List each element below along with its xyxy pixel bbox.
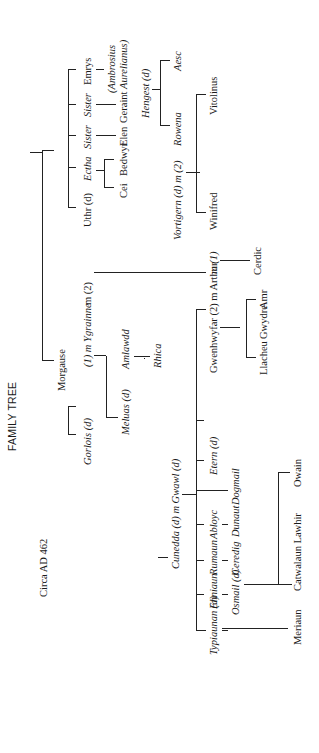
connector xyxy=(68,69,76,70)
connector xyxy=(30,152,42,153)
connector xyxy=(278,472,290,473)
connector xyxy=(196,212,206,213)
person-emrys: Emrys xyxy=(82,58,94,85)
connector xyxy=(68,70,69,208)
connector xyxy=(96,170,104,171)
connector xyxy=(96,135,116,136)
connector xyxy=(196,95,197,213)
connector xyxy=(104,159,114,160)
person-aesc: Aesc xyxy=(172,51,184,71)
person-abloyc: Abloyc xyxy=(208,510,220,539)
connector xyxy=(68,406,76,407)
connector xyxy=(222,560,228,561)
person-morgause: Morgause xyxy=(56,349,68,391)
person-sister-1: Sister xyxy=(82,125,94,149)
connector xyxy=(222,524,228,525)
person-meluas: Meluas (d) xyxy=(120,389,132,435)
connector xyxy=(144,358,145,359)
date-label: Circa AD 462 xyxy=(38,539,50,597)
connector xyxy=(94,272,206,273)
person-vortigern: Vortigern (d) m (2) xyxy=(172,160,184,240)
connector xyxy=(196,420,204,421)
person-ceredig: Ceredig xyxy=(230,542,242,575)
person-dogmail: Dogmail xyxy=(230,468,242,505)
connector xyxy=(68,104,76,105)
connector xyxy=(222,630,228,631)
marriage-arthur-1: m (1) xyxy=(208,252,220,274)
connector xyxy=(196,630,206,631)
connector xyxy=(106,417,118,418)
person-geraint: Geraint xyxy=(118,92,130,124)
connector xyxy=(222,594,228,595)
person-bedwyr: Bedwyr xyxy=(118,143,130,176)
connector xyxy=(196,490,228,491)
person-cei: Cei xyxy=(118,183,130,198)
connector xyxy=(160,61,161,126)
person-sister-2: Sister xyxy=(82,93,94,117)
connector xyxy=(278,473,279,585)
diagram-title: FAMILY TREE xyxy=(6,382,18,451)
connector xyxy=(246,357,256,358)
person-ectha: Ectha xyxy=(82,157,94,182)
person-llacheu: Llacheu xyxy=(258,341,270,375)
connector xyxy=(96,69,104,70)
person-hengest: Hengest (d) xyxy=(140,69,152,118)
connector xyxy=(196,524,204,525)
person-amlawdd: Amlawdd xyxy=(120,329,132,369)
person-cunedda: Cunedda (d) m Gwawl (d) xyxy=(170,459,182,569)
person-rowena: Rowena xyxy=(172,112,184,146)
connector xyxy=(196,309,206,310)
family-tree-diagram: FAMILY TREE Circa AD 462 Uthr (d) Ectha … xyxy=(0,0,319,753)
connector xyxy=(160,125,170,126)
connector xyxy=(196,460,204,461)
person-uthr: Uthr (d) xyxy=(82,193,94,227)
connector xyxy=(220,260,250,261)
person-amr: Amr xyxy=(258,290,270,309)
person-rumaun: Rumaun xyxy=(208,540,220,575)
connector xyxy=(186,172,200,173)
connector xyxy=(152,89,160,90)
connector xyxy=(68,207,76,208)
connector xyxy=(160,60,170,61)
connector xyxy=(134,356,150,357)
connector xyxy=(68,434,76,435)
person-owain: Owain xyxy=(292,459,304,487)
connector xyxy=(246,300,247,358)
person-ygrainne: (1) m Ygrainne xyxy=(82,303,94,367)
connector xyxy=(196,310,197,631)
person-osmail: Osmail (d) xyxy=(230,570,242,615)
connector xyxy=(106,356,107,418)
connector xyxy=(196,94,206,95)
person-elen: Elen xyxy=(118,127,130,146)
person-winifred: Winifred xyxy=(208,193,220,230)
person-enniaun: Enniaun xyxy=(208,573,220,609)
connector xyxy=(94,355,106,356)
marriage-ygrainne-uthr: m (2) xyxy=(82,282,94,305)
connector xyxy=(68,167,76,168)
person-aurelianus: Aurelianus) xyxy=(118,40,130,89)
person-meriaun: Meriaun xyxy=(292,609,304,645)
connector xyxy=(246,299,256,300)
connector xyxy=(104,160,105,188)
connector xyxy=(42,151,43,361)
connector xyxy=(96,104,116,105)
person-etern: Etern (d) xyxy=(208,437,220,475)
connector xyxy=(42,360,54,361)
person-vitolinus: Vitolinus xyxy=(208,77,220,115)
person-gorlois: Gorlois (d) xyxy=(82,418,94,465)
connector xyxy=(196,560,204,561)
person-gwenhwyfar-arthur: Gwenhwyfar (2) m Arthur xyxy=(208,262,220,373)
connector xyxy=(222,628,288,629)
connector xyxy=(220,327,240,328)
person-rhica: Rhica xyxy=(152,344,164,369)
connector xyxy=(182,494,196,495)
connector xyxy=(104,187,114,188)
person-ambrosius: (Ambrosius xyxy=(106,45,118,93)
connector xyxy=(68,135,76,136)
person-cerdic: Cerdic xyxy=(252,247,264,275)
connector xyxy=(244,584,292,585)
person-catwalaun: Catwalaun Lawhir xyxy=(292,513,304,591)
connector xyxy=(68,407,69,435)
person-gwydre: Gwydre xyxy=(258,305,270,339)
connector xyxy=(158,557,168,558)
